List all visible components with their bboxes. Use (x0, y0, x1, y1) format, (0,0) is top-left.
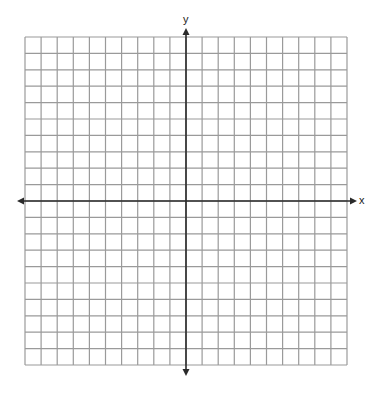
x-axis-label: x (359, 195, 365, 206)
x-axis-right-arrow-icon (350, 198, 357, 205)
y-axis-up-arrow-icon (183, 28, 190, 35)
axes (17, 28, 357, 376)
x-axis-left-arrow-icon (17, 198, 24, 205)
y-axis-label: y (183, 14, 189, 25)
y-axis-down-arrow-icon (183, 369, 190, 376)
coordinate-plane (0, 0, 379, 393)
